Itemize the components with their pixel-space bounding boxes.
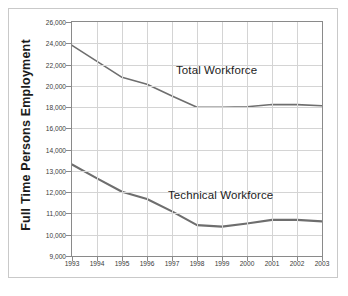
series-label-total-workforce: Total Workforce [176,64,257,76]
gridline-vertical [297,22,298,256]
gridline-vertical [97,22,98,256]
y-axis-tick-label: 18,000 [6,104,66,111]
y-axis-tick-label: 14,000 [6,146,66,153]
gridline-vertical [147,22,148,256]
y-axis-tick-label: 16,000 [6,125,66,132]
plot-area [71,21,323,257]
y-axis-tick-label: 26,000 [6,19,66,26]
gridline-vertical [222,22,223,256]
plot-inner [72,22,322,256]
gridline-vertical [172,22,173,256]
gridline-vertical [247,22,248,256]
gridline-vertical [272,22,273,256]
y-axis-tick-label: 10,000 [6,231,66,238]
y-axis-tick-label: 9,000 [6,253,66,260]
gridline-vertical [197,22,198,256]
gridline-vertical [122,22,123,256]
y-axis-tick-label: 13,000 [6,167,66,174]
series-label-technical-workforce: Technical Workforce [168,189,273,201]
y-axis-tick-label: 11,000 [6,210,66,217]
x-axis-tick-label: 2003 [302,260,342,267]
y-axis-tick-label: 24,000 [6,40,66,47]
y-axis-tick-label: 22,000 [6,61,66,68]
y-axis-tick-label: 20,000 [6,82,66,89]
chart-figure: Full Time Persons Employment 26,00024,00… [0,0,348,296]
y-axis-tick-label: 12,000 [6,189,66,196]
